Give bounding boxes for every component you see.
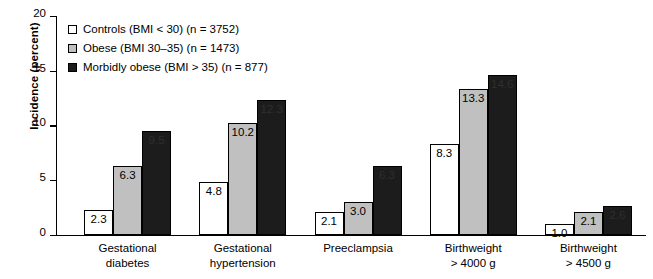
bar[interactable]: 2.3 <box>84 210 113 235</box>
legend-swatch-icon-controls <box>68 25 77 34</box>
bar[interactable]: 14.6 <box>488 75 517 235</box>
bar[interactable]: 2.1 <box>315 212 344 235</box>
bar[interactable]: 4.8 <box>199 182 228 234</box>
bar-value-label: 2.3 <box>91 214 107 226</box>
bar-value-label: 3.0 <box>350 206 366 218</box>
x-category-label: Gestationalhypertension <box>183 241 303 271</box>
bar-group: 1.02.12.6 <box>545 16 632 235</box>
bar-value-label: 4.8 <box>206 186 222 198</box>
bar-value-label: 12.3 <box>261 104 283 116</box>
y-axis-title: Incidence (percent) <box>28 0 40 166</box>
bar-value-label: 13.3 <box>462 93 484 105</box>
y-tick-5: 5 <box>50 180 56 181</box>
bar[interactable]: 12.3 <box>257 100 286 235</box>
bar[interactable]: 6.3 <box>113 166 142 235</box>
x-category-label-line: > 4500 g <box>528 256 648 271</box>
bar-group: 8.313.314.6 <box>430 16 517 235</box>
bar-value-label: 2.1 <box>321 216 337 228</box>
bar-value-label: 2.6 <box>609 210 625 222</box>
bar-value-label: 1.0 <box>551 228 567 240</box>
plot-area: 05101520 Controls (BMI < 30) (n = 3752) … <box>56 16 646 236</box>
x-category-label-line: Birthweight <box>528 241 648 256</box>
bar[interactable]: 9.5 <box>142 131 171 235</box>
bar[interactable]: 2.6 <box>603 206 632 234</box>
x-category-label: Birthweight> 4500 g <box>528 241 648 271</box>
bar-value-label: 14.6 <box>491 79 513 91</box>
bar-group: 2.36.39.5 <box>84 16 171 235</box>
x-category-label-line: Gestational <box>183 241 303 256</box>
x-category-label-line: > 4000 g <box>413 256 533 271</box>
bar-value-label: 6.3 <box>379 170 395 182</box>
y-tick-label-15: 15 <box>16 63 46 75</box>
bar[interactable]: 2.1 <box>574 212 603 235</box>
x-category-label-line: Gestational <box>68 241 188 256</box>
bar-group: 2.13.06.3 <box>315 16 402 235</box>
bar-value-label: 8.3 <box>436 148 452 160</box>
x-category-label-line: diabetes <box>68 256 188 271</box>
bar-chart-figure: Incidence (percent) 05101520 Controls (B… <box>0 0 653 279</box>
bar-group: 4.810.212.3 <box>199 16 286 235</box>
bar[interactable]: 8.3 <box>430 144 459 235</box>
bar[interactable]: 3.0 <box>344 202 373 235</box>
bar-value-label: 9.5 <box>149 135 165 147</box>
bar[interactable]: 6.3 <box>373 166 402 235</box>
x-category-label: Preeclampsia <box>298 241 418 256</box>
bar[interactable]: 10.2 <box>228 123 257 235</box>
y-tick-label-0: 0 <box>16 227 46 239</box>
bar-value-label: 10.2 <box>232 127 254 139</box>
legend-swatch-icon-obese <box>68 44 77 53</box>
y-tick-20: 20 <box>50 16 56 17</box>
legend-swatch-icon-morbidly-obese <box>68 63 77 72</box>
y-tick-label-20: 20 <box>16 8 46 20</box>
x-category-label: Birthweight> 4000 g <box>413 241 533 271</box>
bar-value-label: 6.3 <box>120 170 136 182</box>
bar-value-label: 2.1 <box>580 216 596 228</box>
bar[interactable]: 1.0 <box>545 224 574 235</box>
y-tick-label-10: 10 <box>16 117 46 129</box>
x-category-label-line: Birthweight <box>413 241 533 256</box>
y-tick-label-5: 5 <box>16 172 46 184</box>
y-tick-0: 0 <box>50 235 56 236</box>
bar[interactable]: 13.3 <box>459 89 488 234</box>
x-category-label-line: hypertension <box>183 256 303 271</box>
x-category-label-line: Preeclampsia <box>298 241 418 256</box>
y-tick-10: 10 <box>50 125 56 126</box>
x-category-label: Gestationaldiabetes <box>68 241 188 271</box>
y-axis-line <box>56 16 57 236</box>
y-tick-15: 15 <box>50 71 56 72</box>
